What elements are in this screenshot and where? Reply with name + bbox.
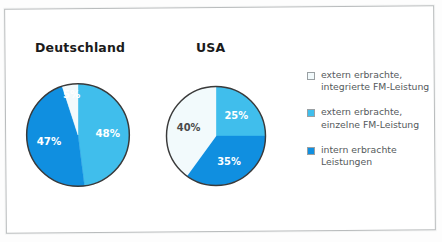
pie-svg-deutschland: 48%47%5% bbox=[22, 79, 134, 191]
pie-slice-label-usa-0: 25% bbox=[224, 110, 248, 121]
legend-item-extern-einzeln[interactable]: extern erbrachte, einzelne FM-Leistung bbox=[307, 106, 439, 130]
legend-item-intern[interactable]: intern erbrachte Leistungen bbox=[307, 144, 439, 168]
legend-label-0: extern erbrachte, integrierte FM-Leistun… bbox=[321, 69, 429, 93]
legend-swatch-icon-1 bbox=[307, 109, 315, 117]
chart-title-usa: USA bbox=[196, 40, 225, 55]
pie-slice-label-deutschland-2: 5% bbox=[63, 88, 80, 100]
figure-root: Deutschland USA 48%47%5% 25%35%40% exter… bbox=[0, 0, 442, 242]
pie-svg-usa: 25%35%40% bbox=[162, 82, 270, 190]
legend: extern erbrachte, integrierte FM-Leistun… bbox=[307, 69, 439, 181]
pie-chart-deutschland: 48%47%5% bbox=[22, 79, 134, 191]
legend-swatch-icon-2 bbox=[307, 147, 315, 155]
figure-content: Deutschland USA 48%47%5% 25%35%40% exter… bbox=[0, 0, 442, 242]
pie-slice-label-usa-2: 40% bbox=[177, 122, 201, 133]
pie-chart-usa: 25%35%40% bbox=[162, 82, 270, 190]
pie-slice-label-deutschland-0: 48% bbox=[95, 127, 120, 139]
legend-label-1: extern erbrachte, einzelne FM-Leistung bbox=[321, 106, 419, 130]
pie-slice-label-usa-1: 35% bbox=[217, 156, 241, 167]
legend-swatch-icon-0 bbox=[307, 72, 315, 80]
legend-label-2: intern erbrachte Leistungen bbox=[321, 144, 397, 168]
chart-title-deutschland: Deutschland bbox=[35, 40, 125, 55]
legend-item-extern-integriert[interactable]: extern erbrachte, integrierte FM-Leistun… bbox=[307, 69, 439, 93]
pie-slice-label-deutschland-1: 47% bbox=[37, 135, 62, 147]
